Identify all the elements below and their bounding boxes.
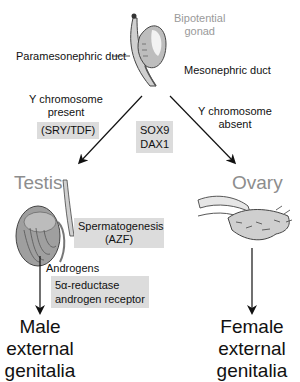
bipotential-gonad-label: Bipotential gonad	[174, 12, 225, 38]
y-present-line1: Y chromosome	[26, 93, 106, 106]
ovary-illustration	[198, 196, 292, 240]
female-line1: Female	[212, 316, 292, 338]
androgen-factors-box: 5α-reductase androgen receptor	[51, 276, 149, 308]
y-present-line2: present	[26, 106, 106, 119]
y-present-label: Y chromosome present	[26, 93, 106, 119]
androgens-label: Androgens	[46, 262, 99, 275]
5a-reductase-label: 5α-reductase	[55, 278, 145, 292]
bipotential-gonad-line2: gonad	[174, 25, 225, 38]
male-line1: Male	[2, 316, 78, 338]
male-line3: genitalia	[2, 360, 78, 382]
paramesonephric-duct-label: Paramesonephric duct	[16, 50, 126, 63]
spermatogenesis-label: Spermatogenesis	[78, 220, 160, 233]
sry-tdf-box: (SRY/TDF)	[37, 122, 99, 139]
dax1-label: DAX1	[140, 137, 169, 151]
testis-label: Testis	[14, 172, 63, 194]
female-genitalia-label: Female external genitalia	[212, 316, 292, 382]
sox9-label: SOX9	[140, 123, 169, 137]
androgen-receptor-label: androgen receptor	[55, 292, 145, 306]
y-absent-line1: Y chromosome	[190, 105, 280, 118]
mesonephric-duct-label: Mesonephric duct	[184, 64, 271, 77]
male-line2: external	[2, 338, 78, 360]
azf-label: (AZF)	[78, 233, 160, 246]
ovary-label: Ovary	[232, 172, 283, 194]
spermatogenesis-box: Spermatogenesis (AZF)	[74, 218, 164, 248]
female-line2: external	[212, 338, 292, 360]
bipotential-gonad-line1: Bipotential	[174, 12, 225, 25]
female-line3: genitalia	[212, 360, 292, 382]
y-absent-line2: absent	[190, 118, 280, 131]
male-genitalia-label: Male external genitalia	[2, 316, 78, 382]
sox9-dax1-box: SOX9 DAX1	[136, 121, 173, 153]
y-absent-label: Y chromosome absent	[190, 105, 280, 131]
